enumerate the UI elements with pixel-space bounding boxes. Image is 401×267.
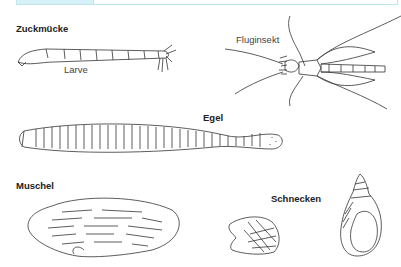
table-header-strip (16, 0, 398, 5)
title-zuckmuecke: Zuckmücke (16, 23, 68, 34)
table-header-cell (17, 0, 94, 4)
title-muschel: Muschel (16, 180, 54, 191)
caption-larve: Larve (64, 64, 88, 75)
title-schnecken: Schnecken (271, 193, 321, 204)
flying-insect-illustration (225, 14, 401, 109)
larva-illustration (14, 42, 179, 77)
leech-illustration (14, 117, 284, 157)
mussel-illustration (22, 192, 182, 262)
pond-snail-illustration (335, 172, 385, 257)
limpet-snail-illustration (222, 212, 282, 256)
